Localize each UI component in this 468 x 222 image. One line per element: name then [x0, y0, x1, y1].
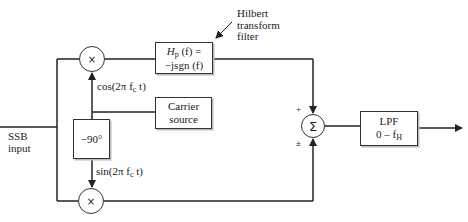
sigma-icon: Σ — [309, 119, 317, 134]
phase-shift-block: −90° — [73, 119, 110, 159]
cos-carrier-label: cos(2π fc t) — [97, 81, 146, 94]
hilbert-line2: −jsgn (f) — [165, 59, 203, 72]
lpf-line2: 0 – fH — [376, 128, 402, 142]
lowpass-filter-block: LPF 0 – fH — [360, 111, 418, 146]
multiplier-bottom: × — [78, 188, 104, 214]
hilbert-line1: Hp (f) = — [167, 45, 202, 59]
carrier-source-block: Carrier source — [155, 97, 212, 129]
hilbert-annotation: Hilbert transform filter — [237, 8, 280, 43]
multiply-icon: × — [87, 196, 95, 207]
ssb-input-label: SSB input — [8, 131, 31, 154]
summing-junction: Σ — [301, 114, 325, 138]
summer-sign-bottom: ± — [296, 139, 301, 148]
multiply-icon: × — [88, 54, 96, 65]
multiplier-top: × — [79, 46, 105, 72]
hilbert-filter-block: Hp (f) = −jsgn (f) — [155, 42, 213, 74]
sin-carrier-label: sin(2π fc t) — [96, 166, 143, 179]
summer-sign-top: + — [296, 105, 301, 114]
